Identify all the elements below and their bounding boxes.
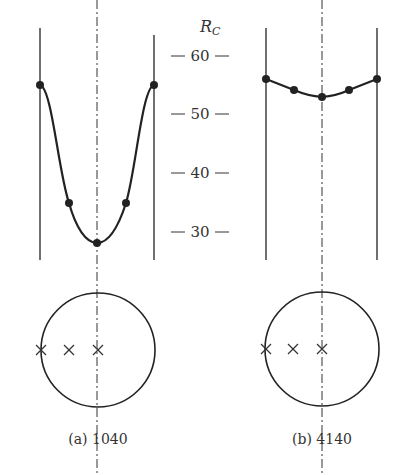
hardness-axis: RC 60 50 40 30 xyxy=(171,17,229,241)
data-point xyxy=(318,93,326,101)
data-point xyxy=(373,75,381,83)
data-point xyxy=(150,81,158,89)
tick-label: 40 xyxy=(190,164,209,182)
cross-mark-icon xyxy=(261,344,271,354)
cross-mark-icon xyxy=(93,345,103,355)
cross-mark-icon xyxy=(64,345,74,355)
data-point xyxy=(65,199,73,207)
data-point xyxy=(290,86,298,94)
data-point xyxy=(122,199,130,207)
panel-a-cross-section: (a) 1040 xyxy=(36,293,155,447)
panel-b-profile xyxy=(262,0,381,475)
data-point xyxy=(36,81,44,89)
hardness-diagram: RC 60 50 40 30 xyxy=(0,0,405,475)
data-point xyxy=(262,75,270,83)
data-point xyxy=(345,86,353,94)
axis-title: RC xyxy=(199,17,221,38)
tick-label: 50 xyxy=(190,105,209,123)
tick-label: 30 xyxy=(190,223,209,241)
panel-a-profile xyxy=(36,0,158,475)
cross-mark-icon xyxy=(288,344,298,354)
data-point xyxy=(93,239,101,247)
panel-b-cross-section: (b) 4140 xyxy=(261,292,379,447)
panel-a-caption: (a) 1040 xyxy=(68,431,127,447)
tick-label: 60 xyxy=(190,47,209,65)
panel-b-caption: (b) 4140 xyxy=(292,431,352,447)
